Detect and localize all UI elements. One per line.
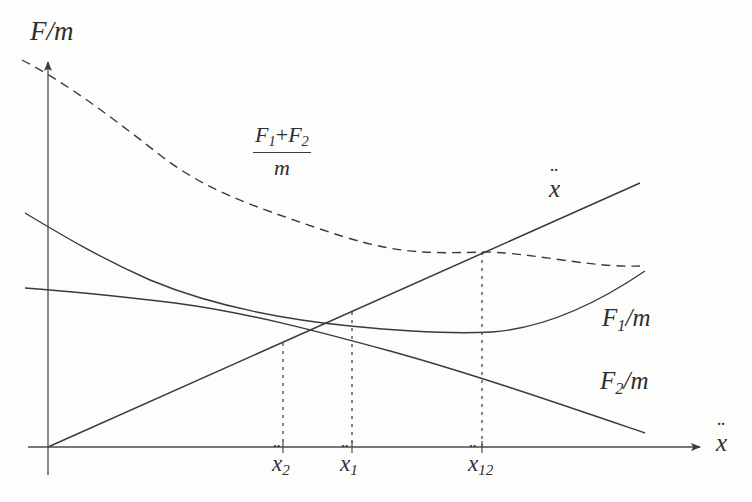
diaeresis-accent: ¨ [550, 164, 558, 187]
curve-force-one-per-mass [25, 213, 645, 333]
diaeresis-accent: ¨ [273, 441, 280, 462]
diagram-canvas [0, 0, 752, 502]
curve-force-two-per-mass [25, 288, 645, 433]
numerator-sub-1: 1 [268, 133, 275, 149]
x-axis-label: x¨ [716, 430, 727, 455]
curve-label-force-one: F1/m [602, 305, 651, 334]
diaeresis-accent: ¨ [469, 441, 476, 462]
curve-label-force-one-suffix: /m [626, 304, 651, 331]
y-axis-label: F/m [30, 18, 74, 45]
curve-label-force-two: F2/m [600, 368, 649, 397]
tick-label-xdd1: x¨1 [340, 452, 358, 477]
diaeresis-accent: ¨ [717, 418, 725, 441]
tick-label-xdd12: x¨12 [468, 452, 493, 477]
annotation-total-force-fraction: F1+F2 m [253, 122, 311, 181]
curve-label-force-two-base: F [600, 367, 615, 394]
tick-label-xdd2-sub: 2 [282, 461, 290, 478]
curve-label-force-one-base: F [602, 304, 617, 331]
tick-label-xdd12-sub: 12 [478, 461, 493, 478]
curve-label-force-one-sub: 1 [617, 316, 625, 335]
line-acceleration [48, 183, 640, 447]
force-acceleration-diagram: F/m x¨ x¨ F1/m F2/m F1+F2 m x¨2 x¨1 x¨12 [0, 0, 752, 502]
curve-label-acceleration: x¨ [549, 176, 560, 201]
fraction-numerator: F1+F2 [253, 122, 311, 153]
curve-label-force-two-suffix: /m [624, 367, 649, 394]
tick-label-xdd1-sub: 1 [350, 461, 358, 478]
curve-label-force-two-sub: 2 [615, 379, 623, 398]
numerator-f2: F [288, 122, 301, 147]
fraction-denominator: m [253, 153, 311, 181]
curve-total-force-per-mass [22, 60, 640, 266]
diaeresis-accent: ¨ [341, 441, 348, 462]
numerator-sub-2: 2 [302, 133, 309, 149]
numerator-plus: + [276, 122, 288, 147]
numerator-f1: F [255, 122, 268, 147]
tick-label-xdd2: x¨2 [272, 452, 290, 477]
